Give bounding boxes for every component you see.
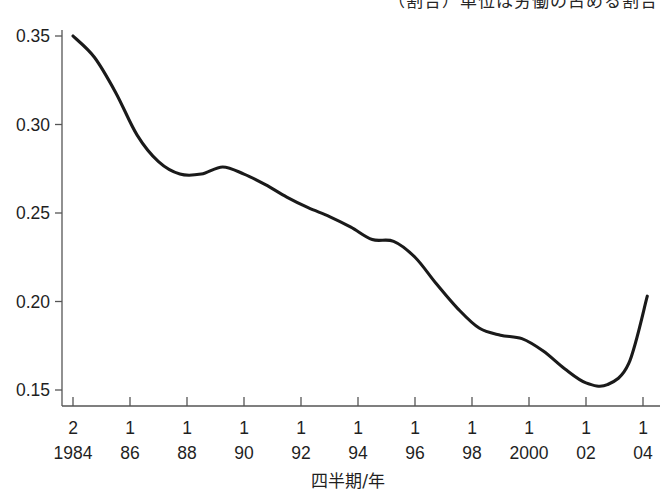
y-tick-label: 0.20	[16, 292, 50, 312]
data-series-line	[73, 36, 647, 386]
chart-figure: （割合）単位は労働の占める割合 0.150.200.250.300.35 219…	[0, 0, 664, 500]
x-tick-quarter-label: 1	[581, 418, 591, 438]
x-tick-year-label: 02	[576, 443, 595, 463]
x-tick-quarter-label: 1	[524, 418, 534, 438]
y-tick-label: 0.15	[16, 380, 50, 400]
x-tick-year-label: 04	[633, 443, 653, 463]
x-tick-year-label: 96	[405, 443, 424, 463]
x-tick-year-label: 2000	[510, 443, 549, 463]
x-tick-quarter-label: 1	[638, 418, 648, 438]
x-tick-year-label: 88	[177, 443, 196, 463]
y-tick-label: 0.30	[16, 115, 50, 135]
line-chart: 0.150.200.250.300.35 2198418618819019219…	[0, 0, 664, 500]
y-axis: 0.150.200.250.300.35	[16, 26, 62, 406]
series-ratio-line	[73, 36, 647, 386]
x-tick-year-label: 94	[348, 443, 368, 463]
x-axis-title-text: 四半期/年	[311, 471, 385, 491]
x-tick-quarter-label: 1	[125, 418, 135, 438]
x-tick-year-label: 98	[462, 443, 481, 463]
x-tick-year-label: 1984	[54, 443, 93, 463]
x-tick-year-label: 86	[120, 443, 139, 463]
cut-off-header-text: （割合）単位は労働の占める割合	[388, 0, 658, 12]
x-tick-quarter-label: 1	[296, 418, 306, 438]
y-tick-label: 0.35	[16, 26, 50, 46]
y-tick-label: 0.25	[16, 203, 50, 223]
x-tick-quarter-label: 1	[239, 418, 249, 438]
x-tick-year-label: 92	[291, 443, 310, 463]
x-tick-year-label: 90	[234, 443, 254, 463]
x-axis: 2198418618819019219419619812000102104	[54, 397, 660, 463]
x-tick-quarter-label: 1	[410, 418, 420, 438]
x-tick-quarter-label: 2	[68, 418, 78, 438]
x-tick-quarter-label: 1	[182, 418, 192, 438]
x-tick-quarter-label: 1	[353, 418, 363, 438]
x-axis-title: 四半期/年	[311, 471, 385, 491]
x-tick-quarter-label: 1	[467, 418, 477, 438]
